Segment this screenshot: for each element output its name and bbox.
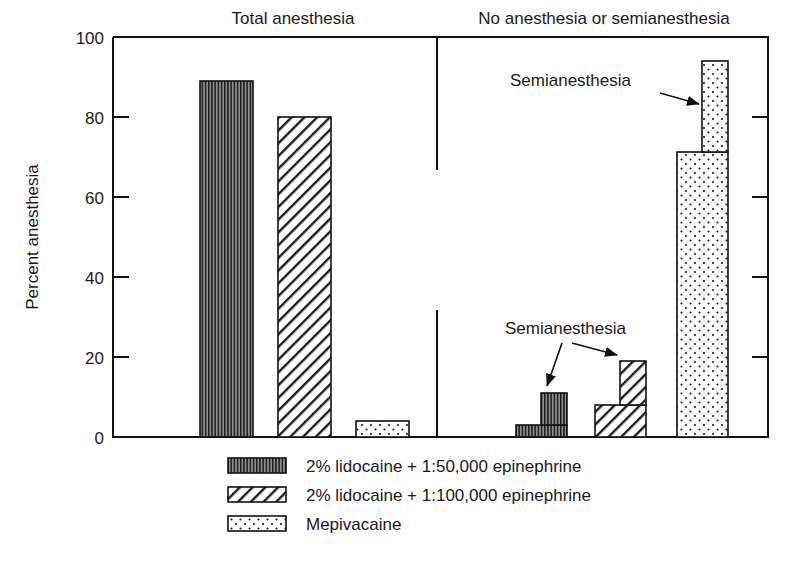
- bar-noanesth-mepivacaine-base: [677, 152, 728, 437]
- legend-swatch-lidocaine-50000: [228, 458, 286, 473]
- y-tick-label-40: 40: [85, 269, 104, 288]
- percent-anesthesia-bar-chart: Total anesthesia No anesthesia or semian…: [0, 0, 792, 564]
- bar-noanesth-lidocaine-50000-base: [516, 425, 567, 437]
- legend-swatch-lidocaine-100000: [228, 487, 286, 502]
- bar-noanesth-lidocaine-50000-semianesthesia: [541, 393, 567, 425]
- legend-label-mepivacaine: Mepivacaine: [306, 515, 401, 534]
- y-tick-label-60: 60: [85, 189, 104, 208]
- y-tick-label-100: 100: [76, 29, 104, 48]
- annotation-semianesthesia-top-label: Semianesthesia: [510, 71, 632, 90]
- legend-label-lidocaine-50000: 2% lidocaine + 1:50,000 epinephrine: [306, 457, 582, 476]
- legend-label-lidocaine-100000: 2% lidocaine + 1:100,000 epinephrine: [306, 486, 591, 505]
- bar-noanesth-lidocaine-100000-base: [595, 405, 646, 437]
- annotation-semianesthesia-bottom-label: Semianesthesia: [505, 319, 627, 338]
- bar-noanesth-lidocaine-100000-semianesthesia: [620, 361, 646, 405]
- annotation-semianesthesia-top-arrow: [660, 93, 699, 104]
- bar-total-lidocaine-100000: [278, 117, 331, 437]
- panel-title-left: Total anesthesia: [232, 9, 355, 28]
- bar-total-lidocaine-50000: [200, 81, 253, 437]
- y-tick-label-80: 80: [85, 109, 104, 128]
- annotation-semianesthesia-bottom-arrow-left: [547, 343, 562, 386]
- y-axis-title: Percent anesthesia: [23, 164, 42, 310]
- legend-swatch-mepivacaine: [228, 516, 286, 531]
- bar-total-mepivacaine: [356, 421, 409, 437]
- y-tick-label-0: 0: [95, 429, 104, 448]
- annotation-semianesthesia-bottom-arrow-right: [572, 343, 617, 355]
- chart-figure: Total anesthesia No anesthesia or semian…: [0, 0, 792, 564]
- y-tick-label-20: 20: [85, 349, 104, 368]
- bar-noanesth-mepivacaine-semianesthesia: [702, 61, 728, 152]
- panel-title-right: No anesthesia or semianesthesia: [478, 9, 730, 28]
